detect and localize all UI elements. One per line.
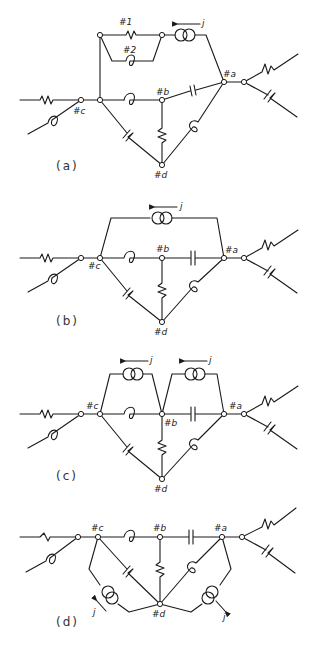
node-c: [97, 411, 102, 416]
node-b: [159, 255, 164, 260]
inductor-a-d: [162, 82, 224, 165]
caption-b: (b): [56, 314, 79, 328]
node-c: [97, 97, 102, 102]
current-label: j: [91, 607, 96, 617]
capacitor-b-a: [162, 251, 224, 265]
node-b: [159, 97, 164, 102]
label-a: #a: [229, 401, 242, 411]
capacitor-c-d: [100, 100, 162, 165]
node-d: [159, 476, 164, 481]
diagram-c: j j #c #b #a #d (c): [20, 355, 298, 494]
branch-label-1: #1: [119, 17, 132, 27]
node-b: [159, 411, 164, 416]
diagram-d: j j #c #b #a #d (d): [20, 508, 296, 629]
resistor-branch-1: [100, 31, 162, 39]
label-d: #d: [154, 170, 168, 180]
node-c: [95, 534, 100, 539]
node-b: [157, 534, 162, 539]
label-b: #b: [164, 418, 178, 428]
label-b: #b: [156, 87, 170, 97]
node-c: [97, 255, 102, 260]
node-a: [219, 534, 224, 539]
caption-a: (a): [56, 159, 79, 173]
label-d: #d: [154, 484, 168, 494]
node-a: [221, 411, 226, 416]
label-c: #c: [86, 401, 99, 411]
branch-label-2: #2: [123, 45, 137, 55]
node-a: [221, 79, 226, 84]
current-label: j: [207, 355, 212, 365]
resistor-b-d: [158, 100, 166, 165]
diagram-b: j #c #b #a #d (b): [20, 201, 298, 337]
label-b: #b: [153, 523, 167, 533]
label-a: #a: [225, 245, 238, 255]
node-a: [221, 255, 226, 260]
label-b: #b: [156, 244, 170, 254]
circuit-figure: j #1 #2 #c #b #a #d (a): [0, 0, 317, 645]
resistor-ext-left: [20, 96, 81, 104]
capacitor-ext-right: [244, 82, 297, 117]
node-d: [159, 162, 164, 167]
label-d: #d: [152, 609, 166, 619]
caption-c: (c): [56, 469, 78, 483]
label-a: #a: [223, 69, 236, 79]
node-d: [159, 319, 164, 324]
node-d: [157, 601, 162, 606]
current-label: j: [178, 201, 183, 211]
resistor-ext-right: [244, 54, 298, 82]
label-d: #d: [154, 327, 168, 337]
label-c: #c: [73, 106, 86, 116]
label-c: #c: [91, 523, 104, 533]
label-c: #c: [88, 261, 101, 271]
current-label: j: [148, 355, 153, 365]
label-a: #a: [214, 523, 227, 533]
caption-d: (d): [56, 615, 79, 629]
current-label: j: [200, 18, 205, 28]
diagram-a: j #1 #2 #c #b #a #d (a): [20, 17, 298, 180]
current-label: j: [221, 612, 226, 622]
